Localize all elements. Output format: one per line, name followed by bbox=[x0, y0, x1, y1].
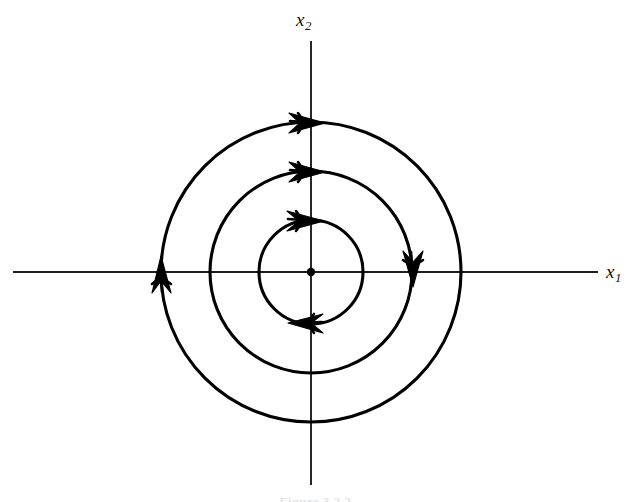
y-axis-label: x2 bbox=[296, 10, 311, 29]
origin-equilibrium-dot bbox=[307, 268, 315, 276]
phase-portrait-canvas bbox=[0, 0, 631, 502]
x-axis-label-subscript: 1 bbox=[615, 270, 621, 285]
outer-left-arrow-icon bbox=[152, 256, 171, 293]
figure-caption: Figure 3.2.2 bbox=[0, 494, 631, 502]
x-axis-label-base: x bbox=[606, 261, 614, 282]
middle-right-arrow-icon bbox=[403, 251, 423, 287]
y-axis-label-base: x bbox=[296, 9, 304, 30]
phase-portrait-figure: x2 x1 Figure 3.2.2 bbox=[0, 0, 631, 502]
inner-top-arrow-icon bbox=[287, 211, 324, 231]
x-axis-label: x1 bbox=[606, 262, 621, 281]
y-axis-label-subscript: 2 bbox=[305, 18, 311, 33]
